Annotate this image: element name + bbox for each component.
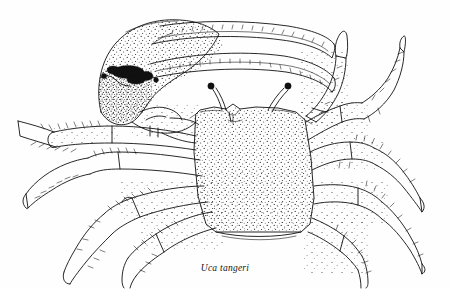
- carapace: [190, 100, 320, 240]
- eye-left: [208, 83, 214, 89]
- crab-illustration: [0, 0, 450, 289]
- figure-caption: Uca tangeri: [0, 263, 450, 273]
- illustration-stage: Uca tangeri: [0, 0, 450, 289]
- eye-right: [285, 83, 291, 89]
